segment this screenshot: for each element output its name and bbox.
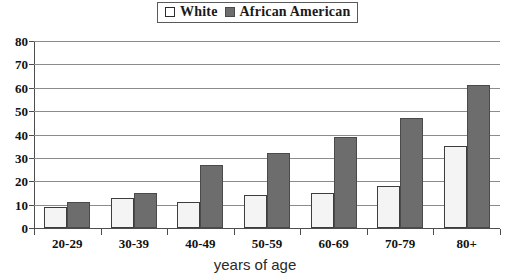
x-axis-tick [433, 229, 434, 235]
bar-group [101, 41, 168, 228]
y-axis-tick-label: 40 [15, 129, 28, 142]
x-axis-tick-label: 60-69 [300, 236, 367, 252]
bar-white-60-69 [311, 193, 334, 228]
x-axis-tick-label: 30-39 [101, 236, 168, 252]
y-axis-labels: 01020304050607080 [0, 0, 28, 280]
bar-white-40-49 [177, 202, 200, 228]
x-axis-tick [34, 229, 35, 235]
bar-group [433, 41, 500, 228]
x-axis-tick [167, 229, 168, 235]
legend-entry-white: White [165, 4, 218, 20]
y-axis-tick-label: 20 [15, 175, 28, 188]
y-axis-tick-label: 30 [15, 152, 28, 165]
x-axis-tick-label: 50-59 [234, 236, 301, 252]
x-axis-tick-label: 20-29 [34, 236, 101, 252]
bar-white-20-29 [44, 207, 67, 228]
bar-african-american-50-59 [267, 153, 290, 228]
bar-group [300, 41, 367, 228]
legend-swatch-african-american-icon [225, 7, 235, 17]
bar-white-50-59 [244, 195, 267, 228]
x-axis-labels: 20-2930-3940-4950-5960-6970-7980+ [34, 236, 500, 254]
bar-group [367, 41, 434, 228]
bar-african-american-20-29 [67, 202, 90, 228]
x-axis-tick-label: 70-79 [367, 236, 434, 252]
x-axis-tick [500, 229, 501, 235]
bar-african-american-80+ [467, 85, 490, 228]
bar-african-american-30-39 [134, 193, 157, 228]
bar-white-30-39 [111, 198, 134, 228]
chart-legend: White African American [157, 2, 358, 23]
bar-african-american-40-49 [200, 165, 223, 228]
bar-groups [34, 41, 500, 228]
x-axis-tick-label: 80+ [433, 236, 500, 252]
y-axis-tick-label: 50 [15, 105, 28, 118]
x-axis-tick [300, 229, 301, 235]
bar-chart: White African American 01020304050607080… [0, 0, 510, 280]
bar-african-american-70-79 [400, 118, 423, 228]
y-axis-tick-label: 70 [15, 58, 28, 71]
bar-african-american-60-69 [334, 137, 357, 228]
y-axis-tick-label: 10 [15, 199, 28, 212]
bar-group [34, 41, 101, 228]
plot-area [34, 41, 500, 228]
legend-entry-african-american: African American [225, 4, 351, 20]
bar-group [234, 41, 301, 228]
bar-white-70-79 [377, 186, 400, 228]
legend-label-african-american: African American [240, 4, 351, 20]
bar-white-80+ [444, 146, 467, 228]
x-axis-tick [367, 229, 368, 235]
legend-swatch-white-icon [165, 7, 175, 17]
x-axis-tick [234, 229, 235, 235]
x-axis-tick [101, 229, 102, 235]
bar-group [167, 41, 234, 228]
y-axis-tick-label: 0 [22, 222, 29, 235]
legend-label-white: White [180, 4, 218, 20]
x-axis-title: years of age [0, 256, 510, 273]
x-axis-ticks [34, 229, 500, 235]
y-axis-tick-label: 80 [15, 35, 28, 48]
x-axis-tick-label: 40-49 [167, 236, 234, 252]
y-axis-tick-label: 60 [15, 82, 28, 95]
